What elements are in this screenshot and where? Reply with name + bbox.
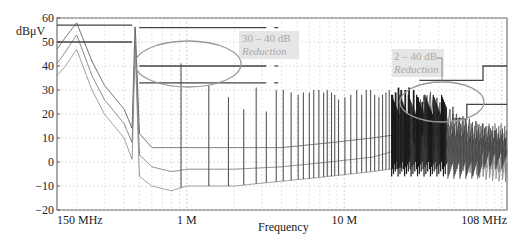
x-tick-label: 150 MHz (57, 213, 103, 227)
annotation-1-label: Reduction (241, 45, 287, 57)
x-axis-label: Frequency (258, 220, 309, 234)
annotation-2-label: Reduction (393, 63, 439, 75)
x-tick-label: 1 M (177, 213, 197, 227)
y-tick-label: 20 (42, 107, 54, 121)
y-tick-label: 30 (42, 83, 54, 97)
y-tick-label: −10 (35, 179, 54, 193)
y-tick-label: 40 (42, 59, 54, 73)
emi-spectrum-chart: 6050403020100−10−20 dBμV 150 MHz1 M10 M1… (0, 0, 525, 245)
y-tick-label: 60 (42, 11, 54, 25)
y-axis-label: dBμV (16, 24, 45, 38)
y-axis-ticks: 6050403020100−10−20 (35, 11, 60, 217)
x-tick-label: 108 MHz (461, 213, 507, 227)
y-tick-label: 0 (48, 155, 54, 169)
y-tick-label: 10 (42, 131, 54, 145)
y-tick-label: −20 (35, 203, 54, 217)
annotation-2-value: 2 – 40 dB (394, 50, 437, 62)
annotation-1-value: 30 – 40 dB (242, 32, 291, 44)
x-tick-label: 10 M (331, 213, 357, 227)
